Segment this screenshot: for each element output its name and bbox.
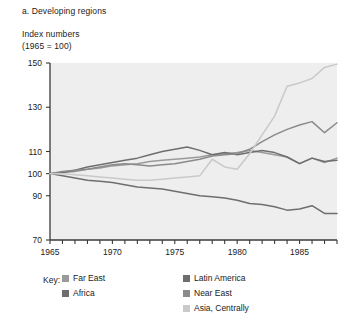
- figure-container: a. Developing regions Index numbers (196…: [0, 0, 351, 318]
- plot-background: [50, 63, 337, 240]
- x-axis-tick-label: 1975: [165, 247, 184, 257]
- legend-item-label: Latin America: [194, 273, 246, 283]
- legend-swatch-icon: [62, 290, 69, 297]
- y-axis-tick-label: 100: [28, 169, 42, 179]
- y-axis-tick-label: 70: [33, 235, 43, 245]
- legend-swatch-icon: [183, 305, 190, 312]
- legend-item-label: Africa: [73, 288, 95, 298]
- x-axis-tick-label: 1970: [103, 247, 122, 257]
- legend-item-label: Near East: [194, 288, 232, 298]
- axis-title-line-1: Index numbers: [22, 29, 80, 39]
- y-axis-tick-label: 90: [33, 191, 43, 201]
- legend-item: Africa: [62, 288, 95, 298]
- y-axis-tick-label: 110: [28, 147, 42, 157]
- x-axis-tick-label: 1980: [228, 247, 247, 257]
- legend-swatch-icon: [62, 275, 69, 282]
- legend-item-label: Asia, Centrally: [194, 303, 249, 313]
- y-axis-tick-label: 150: [28, 58, 42, 68]
- legend-swatch-icon: [183, 290, 190, 297]
- legend-item-label: Far East: [73, 273, 105, 283]
- x-axis-tick-label: 1985: [290, 247, 309, 257]
- y-axis-labels: 7090100110130150: [28, 58, 42, 245]
- legend-key-label: Key:: [43, 275, 60, 285]
- legend-item: Near East: [183, 288, 232, 298]
- legend-swatch-icon: [183, 275, 190, 282]
- axis-title-line-2: (1965 = 100): [22, 41, 72, 51]
- figure-caption: a. Developing regions: [22, 6, 106, 16]
- x-axis-tick-label: 1965: [41, 247, 60, 257]
- legend-item: Asia, Centrally: [183, 303, 249, 313]
- x-axis-labels: 19651970197519801985: [41, 247, 310, 257]
- legend-item: Far East: [62, 273, 105, 283]
- legend-item: Latin America: [183, 273, 246, 283]
- y-axis-tick-label: 130: [28, 102, 42, 112]
